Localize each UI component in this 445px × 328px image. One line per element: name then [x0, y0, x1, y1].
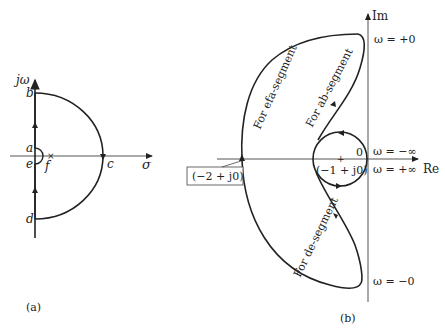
omega-minus-inf-label: ω = −∞ — [373, 145, 417, 158]
crossing-point-label: (−2 + j0) — [192, 170, 243, 183]
im-axis-label: Im — [372, 9, 389, 23]
point-a-label: a — [26, 141, 33, 155]
omega-minus-zero-label: ω = −0 — [373, 275, 414, 288]
panel-b: + Im Re 0 ω = +0 ω = −∞ ω = +∞ ω = −0 (−… — [187, 9, 439, 325]
point-b-label: b — [26, 86, 34, 100]
re-axis-label: Re — [423, 162, 439, 176]
point-e-label: e — [26, 157, 33, 171]
jw-axis-label: jω — [13, 73, 30, 87]
arrow-up-icon — [32, 187, 38, 193]
arrow-down-icon — [330, 101, 336, 107]
origin-label: 0 — [356, 146, 363, 159]
point-f-label: f — [44, 159, 52, 173]
omega-plus-inf-label: ω = +∞ — [373, 163, 417, 176]
de-segment-label-upright: For de-segment — [291, 195, 341, 280]
efa-segment-label: For efa-segment — [251, 42, 300, 131]
critical-point-marker: + — [337, 154, 345, 164]
panel-a: × jω b a e f c d σ (a) — [10, 73, 152, 314]
arrow-down-icon — [100, 154, 106, 160]
arrow-right-icon — [336, 183, 342, 189]
ab-segment-label: For ab-segment — [303, 46, 356, 130]
critical-point-label: (−1 + j0) — [316, 164, 367, 177]
point-d-label: d — [26, 212, 34, 226]
omega-plus-zero-label: ω = +0 — [374, 33, 415, 46]
sigma-axis-label: σ — [142, 157, 152, 172]
arrow-up-icon — [32, 122, 38, 128]
caption-b: (b) — [340, 312, 356, 325]
point-c-label: c — [107, 157, 114, 171]
arrow-up-icon — [239, 154, 245, 161]
arrow-left-icon — [338, 130, 344, 136]
nyquist-figure: × jω b a e f c d σ (a) + Im Re 0 ω = + — [0, 0, 445, 328]
caption-a: (a) — [26, 301, 41, 314]
